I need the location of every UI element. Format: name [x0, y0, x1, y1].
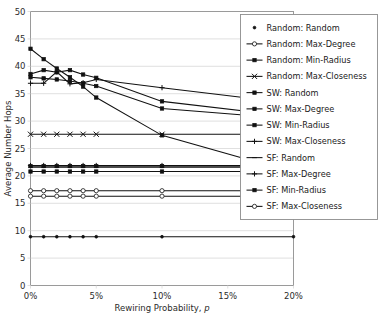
marker-square	[253, 123, 256, 126]
marker-square	[42, 77, 45, 80]
marker-dot	[95, 235, 98, 238]
marker-dot	[29, 235, 32, 238]
marker-square	[253, 107, 256, 110]
x-axis-title: Rewiring Probability, p	[114, 303, 209, 313]
x-tick-label: 20%	[284, 291, 303, 301]
marker-square	[160, 134, 163, 137]
marker-open-circle	[252, 42, 256, 46]
y-tick-label: 0	[20, 281, 25, 291]
y-tick-label: 20	[15, 171, 26, 181]
marker-square	[42, 170, 45, 173]
marker-open-circle	[81, 189, 85, 193]
marker-square	[29, 76, 32, 79]
x-axis-title-symbol: p	[203, 303, 209, 313]
legend-label: SW: Max-Degree	[267, 104, 335, 114]
legend-label: Random: Max-Closeness	[267, 71, 367, 81]
marker-square	[55, 170, 58, 173]
y-tick-label: 10	[15, 226, 26, 236]
marker-square	[95, 96, 98, 99]
x-tick-label: 0%	[24, 291, 38, 301]
marker-square	[68, 170, 71, 173]
marker-dot	[161, 235, 164, 238]
legend-label: SF: Max-Degree	[267, 169, 331, 179]
marker-open-circle	[252, 204, 256, 208]
marker-dot	[55, 235, 58, 238]
legend-label: SW: Max-Closeness	[267, 136, 346, 146]
marker-open-circle	[94, 189, 98, 193]
marker-square	[42, 68, 45, 71]
marker-square	[81, 170, 84, 173]
legend-label: Random: Random	[267, 23, 340, 33]
marker-square	[160, 170, 163, 173]
marker-open-circle	[94, 194, 98, 198]
marker-square	[81, 73, 84, 76]
y-tick-label: 30	[15, 116, 26, 126]
marker-square	[253, 188, 256, 191]
marker-square	[81, 85, 84, 88]
marker-square	[29, 170, 32, 173]
marker-square	[68, 76, 71, 79]
marker-square	[68, 68, 71, 71]
marker-open-circle	[55, 194, 59, 198]
x-tick-label: 10%	[153, 291, 172, 301]
marker-dot	[292, 235, 295, 238]
marker-square	[55, 78, 58, 81]
series-random-random	[29, 235, 295, 238]
legend-label: Random: Max-Degree	[267, 39, 356, 49]
marker-open-circle	[160, 194, 164, 198]
legend-label: SF: Random	[267, 153, 316, 163]
marker-square	[253, 91, 256, 94]
y-tick-label: 25	[15, 144, 26, 154]
marker-open-circle	[160, 189, 164, 193]
y-tick-label: 50	[15, 7, 26, 17]
marker-square	[160, 100, 163, 103]
y-tick-label: 35	[15, 89, 26, 99]
marker-square	[95, 84, 98, 87]
marker-open-circle	[68, 194, 72, 198]
marker-open-circle	[81, 194, 85, 198]
marker-open-circle	[68, 189, 72, 193]
y-tick-label: 5	[20, 253, 25, 263]
marker-square	[253, 58, 256, 61]
chart-container: 051015202530354045500%5%10%15%20%Rewirin…	[0, 0, 379, 315]
marker-square	[95, 170, 98, 173]
marker-open-circle	[42, 189, 46, 193]
legend-item[interactable]: Random: Random	[253, 23, 340, 33]
marker-dot	[253, 26, 256, 29]
marker-open-circle	[42, 194, 46, 198]
y-axis-title: Average Number Hops	[3, 100, 13, 196]
legend-label: SF: Max-Closeness	[267, 201, 343, 211]
legend-label: SW: Min-Radius	[267, 120, 330, 130]
marker-square	[160, 107, 163, 110]
y-tick-label: 15	[15, 198, 26, 208]
marker-open-circle	[28, 189, 32, 193]
marker-open-circle	[55, 189, 59, 193]
marker-plus	[159, 85, 164, 90]
marker-dot	[69, 235, 72, 238]
legend-label: Random: Min-Radius	[267, 55, 351, 65]
marker-square	[29, 72, 32, 75]
marker-open-circle	[28, 194, 32, 198]
y-tick-label: 40	[15, 61, 26, 71]
legend-label: SW: Random	[267, 88, 319, 98]
x-tick-label: 15%	[218, 291, 237, 301]
marker-dot	[82, 235, 85, 238]
y-tick-label: 45	[15, 34, 26, 44]
marker-plus	[28, 81, 33, 86]
marker-dot	[42, 235, 45, 238]
line-chart: 051015202530354045500%5%10%15%20%Rewirin…	[0, 0, 379, 315]
x-tick-label: 5%	[90, 291, 104, 301]
marker-square	[42, 57, 45, 60]
legend-label: SF: Min-Radius	[267, 185, 327, 195]
marker-square	[29, 47, 32, 50]
